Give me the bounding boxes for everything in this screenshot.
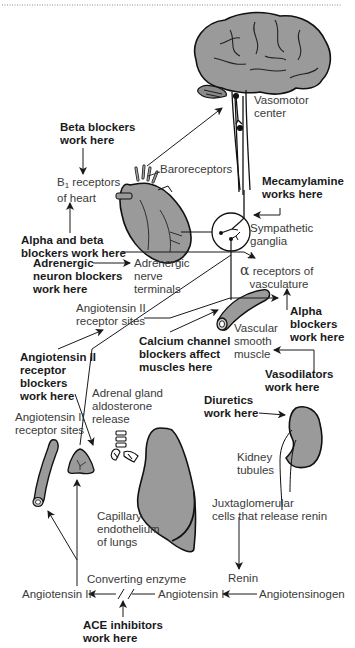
adrenergic-neuron-blockers-label: Adrenergic neuron blockers work here: [33, 257, 122, 296]
antihypertensive-diagram: Vasomotor center Beta blockers work here…: [0, 0, 355, 648]
beta-blockers-label: Beta blockers work here: [60, 121, 135, 147]
alpha-receptors-label: α receptors of vasculature: [240, 264, 313, 291]
b1-receptors-label: B1 receptors of heart: [57, 176, 120, 205]
angiotensin-ii-label: Angiotensin II: [22, 588, 92, 601]
angiotensin-receptor-sites-label-1: Angiotensin II receptor sites: [76, 302, 146, 328]
juxtaglomerular-label: Juxtaglomerular cells that release renin: [212, 497, 327, 523]
spinal-cord: [232, 90, 250, 230]
baroreceptor-signal-arrow: [147, 108, 222, 166]
adrenal-aldosterone-label: Adrenal gland aldosterone release: [92, 387, 163, 426]
trachea-icon: [111, 431, 138, 462]
angiotensin-i-label: Angiotensin I: [158, 588, 225, 601]
mecamylamine-arrow: [254, 208, 280, 215]
alpha-blockers-label: Alpha blockers work here: [290, 305, 344, 344]
vasodilators-label: Vasodilators work here: [265, 368, 333, 394]
b1-prefix: B: [57, 176, 65, 188]
heart-icon: [116, 166, 191, 263]
angiotensin-receptor-sites-label-2: Angiotensin II receptor sites: [15, 411, 85, 437]
mecamylamine-label: Mecamylamine works here: [262, 175, 344, 201]
capillary-endothelium-label: Capillary endothelium of lungs: [97, 510, 160, 549]
diuretics-arrow: [259, 413, 285, 415]
angiotensin-receptor-blockers-label: Angiotensin II receptor blockers work he…: [20, 351, 96, 403]
baroreceptors-label: Baroreceptors: [160, 163, 232, 176]
renin-label: Renin: [228, 572, 258, 585]
break-mark-1: [118, 589, 124, 599]
diuretics-label: Diuretics work here: [204, 394, 258, 420]
kidney-tubules-label: Kidney tubules: [237, 451, 274, 477]
angiotensin-to-artery-arrow: [48, 511, 77, 560]
adrenal-gland-icon: [68, 449, 94, 474]
vascular-smooth-muscle-label: Vascular smooth muscle: [234, 322, 278, 361]
calcium-channel-blockers-label: Calcium channel blockers affect muscles …: [139, 335, 230, 374]
artery-icon: [33, 440, 58, 507]
ace-inhibitors-label: ACE inhibitors work here: [83, 619, 163, 645]
angiotensinogen-label: Angiotensinogen: [259, 588, 345, 601]
sympathetic-ganglia-label: Sympathetic ganglia: [250, 222, 313, 248]
converting-enzyme-label: Converting enzyme: [87, 573, 186, 586]
calcium-channel-arrow: [170, 310, 218, 332]
adrenergic-nerve-terminals-label: Adrenergic nerve terminals: [134, 257, 190, 296]
kidney-icon: [280, 407, 322, 510]
brain-icon: [195, 13, 331, 99]
vasomotor-center-label: Vasomotor center: [254, 94, 309, 120]
alpha-receptors-text: receptors of vasculature: [240, 265, 313, 290]
